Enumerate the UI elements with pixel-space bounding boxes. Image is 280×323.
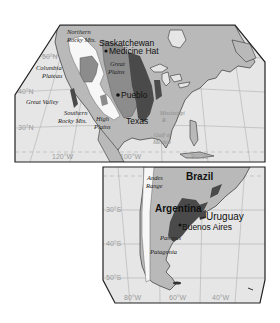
buenos-aires-label: Buenos Aires [182,222,232,232]
texas-label: Texas [126,116,148,126]
pueblo-label: Pueblo [121,90,148,100]
na-lat-50-label: 50°N [42,53,58,60]
mississippi-label-2: R. [161,117,167,123]
na-lon-80-label: 80°W [191,153,209,160]
na-lon-120-label: 120°W [52,153,73,160]
sa-lat-30-label: 30°S [106,206,122,213]
high-plains-label-1: High [95,115,109,122]
columbia-label-2: Plateau [41,72,63,79]
great-plains-label-1: Great [110,60,125,67]
argentina-label: Argentina [155,203,202,214]
sa-lon-40-label: 40°W [212,294,230,301]
south-america-map-panel: 30°S 40°S 50°S 80°W 60°W 40°W Andes Rang… [103,167,265,303]
brazil-label: Brazil [186,171,213,182]
medicine-hat-label: Medicine Hat [109,46,159,56]
na-lat-40-label: 40°N [18,88,34,95]
andes-label-1: Andes [146,174,163,181]
uruguay-label: Uruguay [206,211,244,222]
andes-label-2: Range [145,182,163,189]
sa-lat-40-label: 40°S [106,240,122,247]
na-lat-30-label: 30°N [18,124,34,131]
patagonia-label: Patagonia [149,248,177,255]
north-america-map-panel: 50°N 40°N 30°N 120°W 100°W 80°W Northern… [15,25,265,162]
pampas-label: Pampas [159,234,181,241]
columbia-label-1: Columbia [36,64,62,71]
great-valley-label: Great Valley [26,98,59,105]
na-lon-100-label: 100°W [120,153,141,160]
southern-rocky-label-1: Southern [64,109,87,116]
northern-rocky-label-2: Rocky Mts. [66,36,96,43]
map-figure: 50°N 40°N 30°N 120°W 100°W 80°W Northern… [0,0,280,323]
sa-lon-80-label: 80°W [124,294,142,301]
sa-lon-60-label: 60°W [169,294,187,301]
pueblo-marker [116,93,120,97]
gulf-label-2: Mexico [152,139,171,145]
medicine-hat-marker [104,49,107,52]
northern-rocky-label-1: Northern [66,28,91,35]
high-plains-label-2: Plains [93,123,111,130]
southern-rocky-label-2: Rocky Mts. [57,117,87,124]
mississippi-label-1: Mississippi [159,110,185,116]
sa-lat-50-label: 50°S [106,274,122,281]
great-plains-label-2: Plains [107,68,125,75]
gulf-label-1: Gulf of [154,132,172,138]
